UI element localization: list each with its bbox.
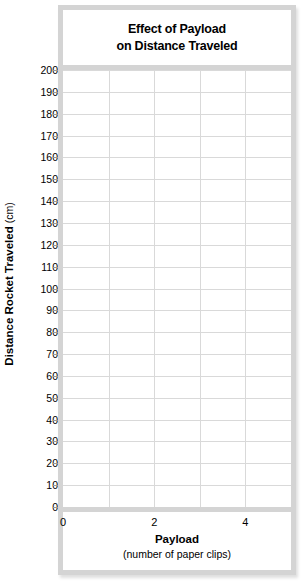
gridline-horizontal: [63, 310, 291, 311]
gridline-horizontal: [63, 201, 291, 202]
gridline-vertical: [245, 70, 246, 507]
y-axis-tick-label: 0: [18, 501, 58, 513]
chart-title-line-1: Effect of Payload: [128, 21, 226, 38]
gridline-vertical: [200, 70, 201, 507]
graph-figure: Distance Rocket Traveled (cm) 0102030405…: [0, 0, 301, 586]
gridline-horizontal: [63, 354, 291, 355]
gridline-horizontal: [63, 463, 291, 464]
y-axis-title: Distance Rocket Traveled (cm): [3, 202, 15, 365]
gridline-horizontal: [63, 441, 291, 442]
x-axis-tick-label: 0: [60, 516, 66, 528]
gridline-horizontal: [63, 245, 291, 246]
gridline-horizontal: [63, 92, 291, 93]
gridline-vertical: [109, 70, 110, 507]
y-axis-tick-label: 130: [18, 217, 58, 229]
x-axis-tick-label: 4: [242, 516, 248, 528]
y-axis-tick-label: 200: [18, 64, 58, 76]
gridline-horizontal: [63, 398, 291, 399]
y-axis-tick-label: 100: [18, 283, 58, 295]
x-axis-panel: 024 Payload (number of paper clips): [63, 512, 291, 570]
gridline-horizontal: [63, 223, 291, 224]
gridline-horizontal: [63, 136, 291, 137]
gridline-horizontal: [63, 267, 291, 268]
y-axis-tick-label: 140: [18, 195, 58, 207]
y-axis-tick-label: 70: [18, 348, 58, 360]
y-axis-tick-label: 190: [18, 86, 58, 98]
y-axis-title-text: Distance Rocket Traveled: [3, 226, 15, 365]
graph-card: Effect of Payload on Distance Traveled 0…: [58, 5, 296, 575]
y-axis-tick-label: 180: [18, 108, 58, 120]
chart-title-panel: Effect of Payload on Distance Traveled: [63, 10, 291, 65]
y-axis-unit-text: (cm): [3, 202, 15, 223]
chart-title-line-2: on Distance Traveled: [116, 38, 237, 55]
y-axis-tick-label: 120: [18, 239, 58, 251]
y-axis-tick-label: 150: [18, 173, 58, 185]
gridline-horizontal: [63, 157, 291, 158]
gridline-horizontal: [63, 179, 291, 180]
gridline-horizontal: [63, 485, 291, 486]
y-axis-tick-label: 40: [18, 414, 58, 426]
gridline-horizontal: [63, 332, 291, 333]
y-axis-tick-label: 20: [18, 457, 58, 469]
y-axis-tick-label: 60: [18, 370, 58, 382]
x-axis-title: Payload: [63, 533, 291, 545]
gridline-horizontal: [63, 114, 291, 115]
y-axis-tick-label: 80: [18, 326, 58, 338]
gridline-vertical: [154, 70, 155, 507]
gridline-horizontal: [63, 376, 291, 377]
y-axis-tick-label: 90: [18, 304, 58, 316]
gridline-horizontal: [63, 420, 291, 421]
x-axis-subtitle: (number of paper clips): [63, 548, 291, 560]
y-axis-tick-label: 160: [18, 151, 58, 163]
plot-area: [63, 70, 291, 507]
y-axis-tick-label: 50: [18, 392, 58, 404]
y-axis-tick-label: 10: [18, 479, 58, 491]
y-axis-tick-label: 30: [18, 435, 58, 447]
gridline-horizontal: [63, 289, 291, 290]
y-axis-tick-label: 170: [18, 130, 58, 142]
y-axis-tick-label: 110: [18, 261, 58, 273]
x-axis-tick-label: 2: [151, 516, 157, 528]
y-axis-title-container: Distance Rocket Traveled (cm): [0, 65, 18, 502]
gridline-horizontal: [63, 70, 291, 71]
